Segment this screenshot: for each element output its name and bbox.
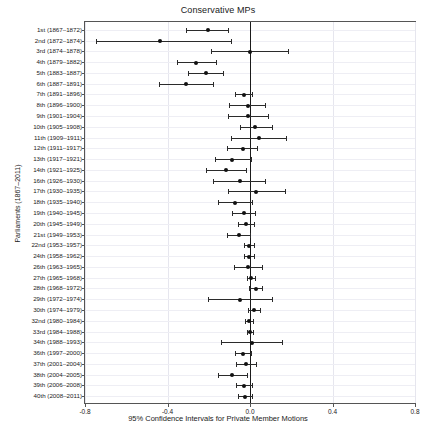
confidence-interval-cap [234, 265, 235, 270]
y-tick-mark [82, 159, 85, 160]
estimate-point [241, 352, 245, 356]
y-axis-tick-label: 34th (1988–1993) [33, 339, 82, 345]
y-tick-mark [82, 202, 85, 203]
estimate-point [250, 341, 254, 345]
confidence-interval-cap [251, 157, 252, 162]
confidence-interval-cap [246, 168, 247, 173]
confidence-interval-cap [254, 222, 255, 227]
estimate-point [230, 373, 234, 377]
y-axis-tick-label: 19th (1940–1945) [33, 210, 82, 216]
y-tick-mark [82, 375, 85, 376]
confidence-interval-cap [227, 233, 228, 238]
forest-plot-figure: Conservative MPs Parliaments (1867–2011)… [0, 0, 436, 439]
y-axis-tick-label: 8th (1896–1900) [37, 102, 82, 108]
estimate-point [246, 104, 250, 108]
estimate-point [252, 308, 256, 312]
confidence-interval-cap [268, 114, 269, 119]
confidence-interval-cap [96, 39, 97, 44]
confidence-interval-cap [285, 189, 286, 194]
y-tick-mark [82, 148, 85, 149]
confidence-interval-cap [206, 168, 207, 173]
y-tick-mark [82, 191, 85, 192]
confidence-interval-cap [208, 297, 209, 302]
estimate-point [242, 93, 246, 97]
y-axis-tick-label: 39th (2006–2008) [33, 382, 82, 388]
estimate-point [194, 61, 198, 65]
y-axis-tick-label: 22nd (1953–1957) [31, 242, 82, 248]
y-tick-mark [82, 116, 85, 117]
confidence-interval-cap [231, 39, 232, 44]
y-tick-mark [82, 396, 85, 397]
confidence-interval-cap [248, 308, 249, 313]
confidence-interval-cap [253, 330, 254, 335]
confidence-interval-cap [218, 200, 219, 205]
y-axis-tick-label: 2nd (1872–1874) [35, 37, 82, 43]
confidence-interval-cap [262, 286, 263, 291]
y-tick-mark [82, 181, 85, 182]
estimate-point [249, 276, 253, 280]
confidence-interval-cap [244, 243, 245, 248]
y-tick-mark [82, 245, 85, 246]
confidence-interval-cap [218, 373, 219, 378]
confidence-interval-cap [216, 60, 217, 65]
y-axis-tick-label: 5th (1883–1887) [37, 70, 82, 76]
y-axis-tick-label: 20th (1945–1949) [33, 221, 82, 227]
confidence-interval-cap [159, 82, 160, 87]
x-tick-mark [250, 403, 251, 407]
estimate-point [242, 384, 246, 388]
y-axis-tick-label: 38th (2004–2005) [33, 372, 82, 378]
estimate-point [254, 287, 258, 291]
confidence-interval-cap [213, 179, 214, 184]
confidence-interval-cap [255, 211, 256, 216]
estimate-point [253, 125, 257, 129]
estimate-point [206, 28, 210, 32]
confidence-interval-cap [227, 146, 228, 151]
confidence-interval-cap [253, 319, 254, 324]
confidence-interval-cap [211, 49, 212, 54]
y-axis-tick-label: 1st (1867–1872) [37, 27, 82, 33]
confidence-interval-cap [223, 71, 224, 76]
confidence-interval-cap [229, 103, 230, 108]
y-tick-mark [82, 105, 85, 106]
confidence-interval-cap [254, 254, 255, 259]
y-axis-tick-label: 6th (1887–1891) [37, 81, 82, 87]
confidence-interval-cap [238, 222, 239, 227]
estimate-point [204, 71, 208, 75]
y-tick-mark [82, 353, 85, 354]
y-tick-mark [82, 127, 85, 128]
confidence-interval-cap [232, 211, 233, 216]
confidence-interval-cap [228, 114, 229, 119]
confidence-interval-cap [272, 297, 273, 302]
y-tick-mark [82, 41, 85, 42]
y-tick-mark [82, 213, 85, 214]
confidence-interval-cap [252, 200, 253, 205]
estimate-point [257, 136, 261, 140]
estimate-point [247, 255, 251, 259]
y-tick-mark [82, 278, 85, 279]
y-tick-mark [82, 94, 85, 95]
y-tick-mark [82, 299, 85, 300]
confidence-interval-cap [251, 351, 252, 356]
confidence-interval-cap [252, 92, 253, 97]
confidence-interval-cap [245, 319, 246, 324]
confidence-interval-cap [252, 394, 253, 399]
y-axis-tick-label: 24th (1958–1962) [33, 253, 82, 259]
y-tick-mark [82, 224, 85, 225]
confidence-interval-cap [221, 340, 222, 345]
y-tick-mark [82, 62, 85, 63]
y-tick-mark [82, 84, 85, 85]
y-axis-tick-label: 9th (1901–1904) [37, 113, 82, 119]
y-tick-mark [82, 30, 85, 31]
y-axis-tick-label: 32nd (1980–1984) [31, 318, 82, 324]
y-axis-tick-label: 7th (1891–1896) [37, 91, 82, 97]
y-tick-mark [82, 364, 85, 365]
y-tick-mark [82, 288, 85, 289]
x-tick-mark [85, 403, 86, 407]
confidence-interval-cap [247, 276, 248, 281]
confidence-interval-cap [186, 28, 187, 33]
estimate-point [254, 190, 258, 194]
y-tick-mark [82, 385, 85, 386]
confidence-interval-cap [228, 189, 229, 194]
confidence-interval-cap [272, 125, 273, 130]
confidence-interval-bar [96, 41, 231, 42]
